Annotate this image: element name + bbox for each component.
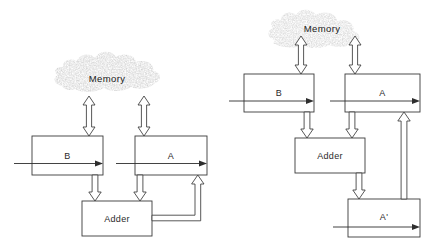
memory-label-left: Memory — [89, 73, 126, 84]
feedback-adder-a-left — [152, 175, 204, 221]
memory-label-right: Memory — [304, 23, 341, 34]
arrow-memory-a-left — [138, 96, 150, 136]
box-b-left: B — [32, 136, 103, 175]
arrow-memory-b-left — [83, 96, 95, 136]
arrow-a-adder-right — [346, 112, 358, 138]
block-diagram-svg: Memory B A — [0, 0, 432, 250]
box-adder-label-left: Adder — [104, 214, 130, 224]
memory-cloud-right: Memory — [268, 10, 359, 48]
box-b-right: B — [244, 74, 314, 112]
box-a-label-right: A — [379, 88, 385, 98]
right-panel: Memory B A — [229, 10, 420, 237]
box-b-label-left: B — [64, 151, 70, 161]
arrow-aprime-a-right — [398, 112, 410, 199]
arrow-b-adder-right — [301, 112, 313, 138]
arrow-memory-b-right — [295, 36, 307, 74]
arrow-memory-a-right — [349, 36, 361, 74]
box-adder-left: Adder — [82, 201, 152, 236]
left-panel: Memory B A — [14, 52, 207, 236]
box-adder-label-right: Adder — [317, 151, 343, 161]
box-adder-right: Adder — [295, 138, 365, 173]
arrow-b-adder-left — [89, 175, 101, 201]
diagram-canvas: Memory B A — [0, 0, 432, 250]
box-aprime-right: A' — [348, 199, 420, 237]
memory-cloud-left: Memory — [55, 52, 161, 92]
arrow-a-adder-left — [134, 175, 146, 201]
box-b-label-right: B — [276, 88, 282, 98]
box-a-right: A — [345, 74, 420, 112]
arrow-adder-aprime-right — [353, 173, 365, 199]
box-a-left: A — [135, 136, 207, 175]
box-aprime-label-right: A' — [380, 212, 388, 222]
box-a-label-left: A — [168, 151, 174, 161]
